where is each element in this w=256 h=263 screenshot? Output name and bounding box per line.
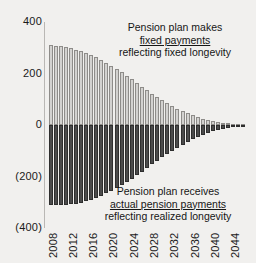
bar-negative [221, 125, 225, 129]
bar-positive [74, 50, 78, 125]
y-tick-label: 200 [0, 67, 42, 79]
annotation-top-line1: Pension plan makes [100, 21, 250, 34]
annotation-bottom-line1: Pension plan receives [86, 185, 250, 198]
y-tick-label: 400 [0, 15, 42, 27]
pension-cashflow-chart: 4002000(200)(400) 2008201220162020202420… [0, 0, 256, 263]
bar-positive [54, 46, 58, 125]
bar-positive [109, 66, 113, 125]
bar-negative [140, 125, 144, 172]
bar-negative [135, 125, 139, 175]
bar-negative [175, 125, 179, 148]
bar-positive [175, 109, 179, 125]
bar-positive [99, 60, 103, 125]
bar-negative [109, 125, 113, 191]
x-tick-label: 2036 [189, 233, 201, 258]
bar-negative [69, 125, 73, 204]
x-tick-label: 2040 [209, 233, 221, 258]
bar-positive [170, 106, 174, 125]
bar-negative [226, 125, 230, 128]
bar-negative [165, 125, 169, 154]
bar-negative [181, 125, 185, 145]
bar-negative [170, 125, 174, 151]
bar-negative [155, 125, 159, 161]
bar-negative [196, 125, 200, 137]
bar-positive [49, 45, 53, 125]
bar-positive [196, 117, 200, 125]
bar-positive [186, 113, 190, 125]
bar-negative [74, 125, 78, 204]
bar-negative [79, 125, 83, 203]
bar-positive [155, 97, 159, 125]
bar-positive [130, 79, 134, 125]
x-tick-label: 2044 [229, 233, 241, 258]
y-tick-label: 0 [0, 118, 42, 130]
bar-negative [191, 125, 195, 139]
x-tick-label: 2012 [67, 233, 79, 258]
bar-positive [145, 90, 149, 125]
bar-negative [241, 125, 245, 127]
bar-positive [104, 63, 108, 125]
x-tick-label: 2020 [107, 233, 119, 258]
bar-negative [64, 125, 68, 205]
x-tick-label: 2032 [168, 233, 180, 258]
bar-positive [59, 46, 63, 125]
bar-negative [231, 125, 235, 127]
bar-positive [150, 94, 154, 125]
bar-positive [64, 47, 68, 125]
bar-positive [160, 100, 164, 125]
bar-negative [145, 125, 149, 168]
bar-positive [165, 103, 169, 125]
x-tick-label: 2016 [87, 233, 99, 258]
bar-positive [140, 87, 144, 125]
bar-positive [69, 48, 73, 125]
bar-negative [120, 125, 124, 185]
bar-negative [206, 125, 210, 133]
bar-negative [104, 125, 108, 193]
x-tick-label: 2028 [148, 233, 160, 258]
bar-positive [79, 51, 83, 125]
bar-negative [54, 125, 58, 205]
bar-negative [130, 125, 134, 179]
bar-positive [89, 55, 93, 125]
bar-positive [181, 111, 185, 125]
annotation-bottom-line3: reflecting realized longevity [86, 210, 250, 223]
bar-negative [216, 125, 220, 130]
bar-positive [125, 76, 129, 125]
y-tick-label: (400) [0, 221, 42, 233]
annotation-top-line3: reflecting fixed longevity [100, 46, 250, 59]
bar-negative [201, 125, 205, 135]
bar-positive [115, 69, 119, 125]
bar-positive [135, 83, 139, 125]
bar-negative [49, 125, 53, 205]
bar-positive [191, 115, 195, 125]
annotation-bottom: Pension plan receives actual pension pay… [86, 185, 250, 223]
x-tick-label: 2024 [128, 233, 140, 258]
annotation-bottom-line2: actual pension payments [86, 198, 250, 211]
bar-negative [125, 125, 129, 182]
bar-negative [115, 125, 119, 188]
x-tick-label: 2008 [47, 233, 59, 258]
bar-negative [236, 125, 240, 127]
bar-negative [186, 125, 190, 142]
annotation-top: Pension plan makes fixed payments reflec… [100, 21, 250, 59]
bar-positive [120, 72, 124, 125]
annotation-top-line2: fixed payments [100, 34, 250, 47]
y-tick-label: (200) [0, 170, 42, 182]
bar-negative [160, 125, 164, 157]
bar-positive [94, 57, 98, 125]
bar-negative [150, 125, 154, 164]
bar-negative [59, 125, 63, 205]
bar-positive [84, 53, 88, 125]
bar-negative [211, 125, 215, 131]
